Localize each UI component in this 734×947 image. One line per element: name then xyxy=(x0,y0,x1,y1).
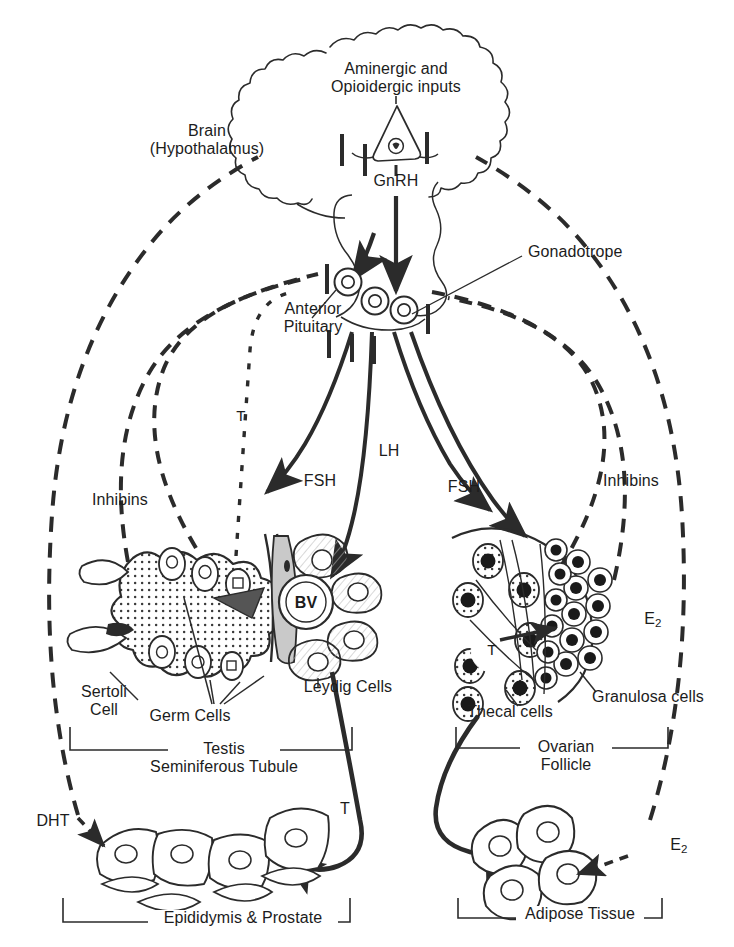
hpg-axis-diagram: Aminergic and Opioidergic inputs Brain (… xyxy=(0,0,734,947)
hypothalamus-stalk-outline xyxy=(297,204,345,218)
fsh-left-outflow-arrow xyxy=(267,332,352,492)
dht-label: DHT xyxy=(36,812,69,830)
adipose-bracket-label: Adipose Tissue xyxy=(525,905,635,923)
ovary-testosterone-label: T xyxy=(487,641,496,658)
testosterone-target-label: T xyxy=(340,800,350,818)
thecal-cells-label: Thecal cells xyxy=(467,703,553,721)
lh-right-outflow-arrow xyxy=(411,332,525,536)
brain-outline-group xyxy=(228,25,509,218)
epididymis-prostate-illustration xyxy=(78,808,329,911)
testis-bracket-label: Testis Seminiferous Tubule xyxy=(150,740,298,777)
estradiol-follicle-subscript: 2 xyxy=(655,618,661,630)
pituitary-left-lobe-outline xyxy=(334,195,360,317)
testis-illustration-group xyxy=(67,534,381,680)
leydig-cells-label: Leydig Cells xyxy=(304,678,392,696)
epididymis-prostate-bracket-label: Epididymis & Prostate xyxy=(164,909,323,927)
anterior-pituitary-label: Anterior Pituitary xyxy=(284,300,343,337)
brain-hypothalamus-label: Brain (Hypothalamus) xyxy=(150,122,264,159)
granulosa-cells-label: Granulosa cells xyxy=(592,688,704,706)
gonadotrope-label: Gonadotrope xyxy=(528,243,623,261)
gonadotrope-cell-3-inner xyxy=(398,304,410,316)
estradiol-adipose-label: E2 xyxy=(652,818,687,875)
gonadotrope-cell-2-inner xyxy=(369,295,381,307)
aminergic-inputs-label: Aminergic and Opioidergic inputs xyxy=(331,60,461,97)
germ-cells-label: Germ Cells xyxy=(149,707,230,725)
ovarian-follicle-bracket-label: Ovarian Follicle xyxy=(538,738,595,775)
estradiol-follicle-label: E2 xyxy=(626,592,661,649)
sertoli-cell-label: Sertoli Cell xyxy=(81,683,127,720)
granulosa-cells-group xyxy=(535,539,612,689)
fsh-right-label: FSH xyxy=(448,478,480,496)
brain-cortex-outline xyxy=(228,25,509,204)
inhibins-left-label: Inhibins xyxy=(92,491,148,509)
blood-vessel-label: BV xyxy=(295,594,317,612)
adipose-tissue-illustration xyxy=(472,806,628,919)
fsh-left-label: FSH xyxy=(304,472,336,490)
dht-entry-arrow xyxy=(78,818,104,846)
estradiol-follicle-symbol: E xyxy=(644,610,655,627)
testosterone-dotted-label: T xyxy=(236,407,245,424)
ovary-illustration-group xyxy=(452,528,612,721)
lh-label: LH xyxy=(379,442,400,460)
gnrh-label: GnRH xyxy=(374,172,419,190)
inhibins-right-inner-feedback-path xyxy=(448,298,604,568)
gonadotrope-cell-1-inner xyxy=(342,276,354,288)
estradiol-adipose-symbol: E xyxy=(670,836,681,853)
gonadotrope-cells-group xyxy=(335,269,418,324)
inhibins-right-label: Inhibins xyxy=(603,472,659,490)
estradiol-adipose-subscript: 2 xyxy=(681,844,687,856)
